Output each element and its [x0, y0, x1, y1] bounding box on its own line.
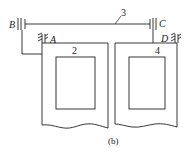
label-b: B — [9, 19, 15, 30]
link-b — [22, 30, 42, 54]
label-shaft-3: 3 — [121, 7, 126, 18]
block-2-inner — [56, 57, 95, 109]
block-4-inner — [129, 57, 165, 109]
mechanism-diagram: B A C D 3 2 4 (b) — [0, 0, 193, 155]
bearing-b-icon — [18, 18, 25, 30]
fixed-support-d-icon — [171, 33, 181, 43]
bearing-c-icon — [150, 18, 156, 30]
label-d: D — [160, 33, 169, 44]
label-a: A — [49, 34, 57, 45]
label-c: C — [159, 18, 166, 29]
fixed-support-a-icon — [38, 33, 48, 43]
label-block-4: 4 — [155, 45, 160, 56]
block-4-outer — [115, 43, 177, 127]
caption: (b) — [108, 136, 119, 146]
label-block-2: 2 — [72, 45, 77, 56]
